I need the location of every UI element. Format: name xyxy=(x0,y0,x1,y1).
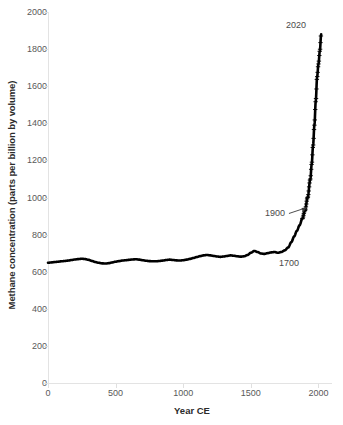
plot-area xyxy=(0,0,343,425)
data-series-methane xyxy=(48,34,323,263)
methane-concentration-chart: Methane concentration (parts per billion… xyxy=(0,0,343,425)
annotation-2020: 2020 xyxy=(286,20,306,30)
x-axis-title: Year CE xyxy=(48,405,336,416)
series-line xyxy=(48,34,321,263)
annotation-1700: 1700 xyxy=(279,258,299,268)
annotation-1900: 1900 xyxy=(265,208,285,218)
